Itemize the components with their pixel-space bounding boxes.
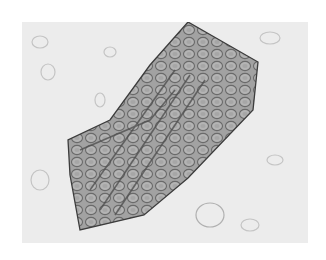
micrograph-svg (22, 22, 308, 243)
micrograph (22, 22, 308, 243)
tissue-fragment (68, 22, 258, 230)
